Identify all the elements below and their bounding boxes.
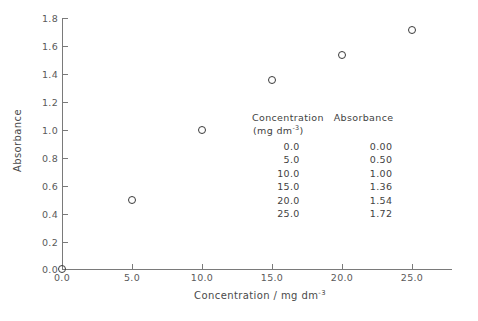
x-axis-title-text: Concentration / mg dm (194, 290, 318, 301)
units-concentration: (mg dm-3) (252, 124, 334, 139)
column-header-absorbance: Absorbance (334, 112, 394, 124)
y-axis-tick (63, 18, 68, 19)
y-axis-tick (63, 186, 68, 187)
inset-data-table: Concentration Absorbance (mg dm-3) 0.00.… (252, 112, 393, 220)
x-axis-line (62, 269, 452, 270)
y-axis-tick-label: 0.8 (28, 153, 58, 164)
y-axis-line (62, 18, 63, 270)
y-axis-tick-label: 1.0 (28, 125, 58, 136)
x-axis-title: Concentration / mg dm-3 (100, 290, 420, 301)
data-point (408, 26, 416, 34)
units-exponent: -3 (292, 124, 299, 132)
units-absorbance-empty (334, 124, 394, 139)
x-axis-tick-label: 20.0 (322, 272, 362, 283)
cell-absorbance: 0.50 (334, 153, 394, 167)
x-axis-tick (342, 264, 343, 269)
x-axis-tick-label: 0.0 (42, 272, 82, 283)
x-axis-title-exponent: -3 (318, 289, 326, 297)
data-table-body: 0.00.005.00.5010.01.0015.01.3620.01.5425… (252, 139, 393, 220)
cell-concentration: 20.0 (252, 193, 334, 207)
table-row: 0.00.00 (252, 139, 393, 153)
scatter-chart-figure: 1.8 1.6 1.4 1.2 1.0 0.8 0.6 0.4 0.2 0.0 … (0, 0, 478, 321)
y-axis-tick-label: 1.2 (28, 97, 58, 108)
y-axis-tick (63, 130, 68, 131)
table-row: 5.00.50 (252, 153, 393, 167)
table-row: 20.01.54 (252, 193, 393, 207)
table-row: 10.01.00 (252, 166, 393, 180)
column-header-concentration: Concentration (252, 112, 334, 124)
y-axis-tick-label: 0.2 (28, 237, 58, 248)
x-axis-tick-label: 25.0 (392, 272, 432, 283)
y-axis-tick (63, 158, 68, 159)
cell-absorbance: 1.36 (334, 180, 394, 194)
table-header-row: Concentration Absorbance (252, 112, 393, 124)
cell-absorbance: 1.00 (334, 166, 394, 180)
data-point (338, 51, 346, 59)
cell-absorbance: 1.54 (334, 193, 394, 207)
cell-concentration: 5.0 (252, 153, 334, 167)
x-axis-tick (412, 264, 413, 269)
y-axis-tick-label: 1.8 (28, 13, 58, 24)
table-row: 15.01.36 (252, 180, 393, 194)
table-row: 25.01.72 (252, 207, 393, 221)
data-point (268, 76, 276, 84)
data-table-element: Concentration Absorbance (mg dm-3) 0.00.… (252, 112, 393, 220)
x-axis-tick-label: 5.0 (112, 272, 152, 283)
x-axis-tick-label: 10.0 (182, 272, 222, 283)
y-axis-tick-label: 0.4 (28, 209, 58, 220)
cell-concentration: 0.0 (252, 139, 334, 153)
x-axis-tick (202, 264, 203, 269)
table-units-row: (mg dm-3) (252, 124, 393, 139)
y-axis-tick-label: 1.4 (28, 69, 58, 80)
cell-absorbance: 0.00 (334, 139, 394, 153)
data-point (198, 126, 206, 134)
cell-concentration: 10.0 (252, 166, 334, 180)
units-close: ) (300, 125, 304, 136)
y-axis-tick (63, 242, 68, 243)
cell-concentration: 25.0 (252, 207, 334, 221)
y-axis-tick-label: 0.6 (28, 181, 58, 192)
data-table-head: Concentration Absorbance (mg dm-3) (252, 112, 393, 139)
y-axis-title: Absorbance (12, 91, 23, 191)
y-axis-tick (63, 46, 68, 47)
cell-absorbance: 1.72 (334, 207, 394, 221)
cell-concentration: 15.0 (252, 180, 334, 194)
x-axis-tick (132, 264, 133, 269)
y-axis-tick (63, 74, 68, 75)
data-point (58, 265, 66, 273)
x-axis-tick (272, 264, 273, 269)
y-axis-tick (63, 102, 68, 103)
data-point (128, 196, 136, 204)
y-axis-tick (63, 214, 68, 215)
x-axis-tick-label: 15.0 (252, 272, 292, 283)
y-axis-tick-label: 1.6 (28, 41, 58, 52)
units-text: (mg dm (253, 125, 292, 136)
